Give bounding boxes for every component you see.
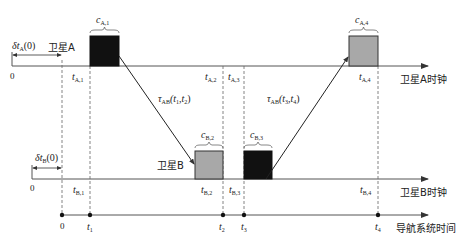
satA-zero-label: 0	[10, 71, 15, 81]
cA4-label: cA,4	[355, 14, 368, 26]
t4-label: t4	[375, 221, 381, 233]
block-cA4	[349, 36, 378, 66]
satellite-B-label: 卫星B	[157, 157, 184, 172]
tA1-label: tA,1	[72, 71, 84, 83]
system-time-label: 导航系统时间	[396, 220, 456, 235]
t2-label: t2	[219, 221, 225, 233]
satA-clock-label: 卫星A时钟	[400, 71, 447, 86]
dot-t2	[221, 213, 225, 217]
tA3-label: tA,3	[228, 71, 240, 83]
satellite-A-label: 卫星A	[48, 39, 75, 54]
tB4-label: tB,4	[360, 184, 371, 196]
cA1-label: cA,1	[96, 14, 109, 26]
cB2-label: cB,2	[201, 129, 214, 141]
tau-t3t4-label: τAB(t3,t4)	[267, 93, 300, 105]
satB-clock-label: 卫星B时钟	[400, 184, 447, 199]
tB2-label: tB,2	[201, 184, 212, 196]
t1-label: t1	[87, 221, 93, 233]
tau-t1t2-label: τAB(t1,t2)	[158, 93, 191, 105]
link-A1-B2	[119, 56, 194, 164]
system-zero-label: 0	[60, 221, 65, 231]
block-cB2	[195, 151, 223, 179]
satB-zero-label: 0	[30, 183, 35, 193]
block-cA1	[90, 36, 119, 66]
tB3-label: tB,3	[229, 184, 240, 196]
cB3-label: cB,3	[250, 129, 263, 141]
dot-t4	[376, 213, 380, 217]
deltaB-label: δtB(0)	[35, 152, 58, 164]
dot-t3	[242, 213, 246, 217]
time-sync-diagram	[0, 0, 467, 246]
block-cB3	[244, 151, 272, 179]
deltaA-label: δtA(0)	[12, 40, 35, 52]
tA2-label: tA,2	[205, 71, 217, 83]
link-B3-A4	[266, 57, 348, 179]
dot-t1	[88, 213, 92, 217]
t3-label: t3	[241, 221, 247, 233]
dot-zero	[60, 213, 64, 217]
tA4-label: tA,4	[359, 71, 371, 83]
tB1-label: tB,1	[73, 184, 84, 196]
